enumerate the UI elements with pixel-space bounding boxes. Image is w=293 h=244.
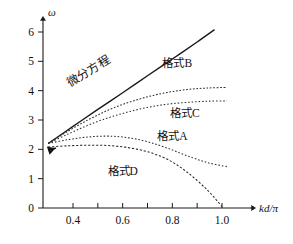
axes-group (43, 19, 253, 208)
x-tick-label: 0.8 (165, 214, 180, 226)
y-tick-label: 0 (28, 202, 34, 214)
y-axis-ticks: 0123456 (28, 26, 43, 214)
curve-label-scheme-C: 格式C (170, 106, 200, 119)
curve-label-scheme-D: 格式D (108, 164, 138, 177)
curve-label-scheme-B: 格式B (162, 56, 192, 69)
curve-label-exact: 微分方程 (64, 52, 113, 90)
y-tick-label: 4 (28, 85, 34, 97)
y-tick-label: 1 (28, 173, 34, 185)
curve-scheme-A (48, 136, 227, 167)
x-tick-label: 1.0 (215, 214, 230, 226)
curve-scheme-C (48, 101, 227, 144)
dispersion-chart-figure: 0123456 0.40.60.81.0 微分方程格式B格式C格式A格式D ω … (0, 0, 293, 244)
curve-label-scheme-A: 格式A (157, 129, 188, 142)
y-tick-label: 5 (28, 55, 34, 67)
curve-scheme-B (48, 87, 227, 143)
y-axis-label: ω (48, 6, 56, 18)
y-tick-label: 6 (28, 26, 34, 38)
y-tick-label: 2 (28, 143, 34, 155)
curve-paths-group (48, 30, 227, 207)
x-tick-label: 0.4 (66, 214, 81, 226)
origin-arrow-marker (49, 148, 57, 151)
y-tick-label: 3 (28, 114, 34, 126)
x-tick-label: 0.6 (115, 214, 130, 226)
chart-canvas: 0123456 0.40.60.81.0 微分方程格式B格式C格式A格式D ω … (0, 0, 293, 244)
x-axis-ticks: 0.40.60.81.0 (66, 203, 230, 226)
x-axis-label: kd/π (259, 202, 278, 214)
curve-labels-group: 微分方程格式B格式C格式A格式D (64, 52, 200, 177)
